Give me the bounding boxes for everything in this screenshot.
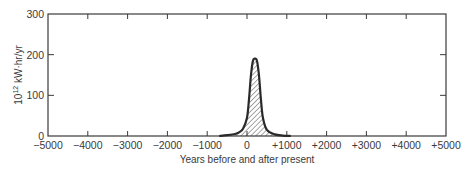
- x-tick-label: +2000: [312, 139, 342, 151]
- x-tick-label: −1000: [192, 139, 222, 151]
- x-tick-label: 0: [244, 139, 250, 151]
- y-tick-label: 200: [26, 49, 44, 61]
- production-curve-chart: −5000−4000−3000−2000−10000+1000+2000+300…: [0, 0, 468, 176]
- y-axis-title: 1012 kW·hr/yr: [12, 45, 24, 105]
- x-axis-title: Years before and after present: [180, 154, 315, 165]
- x-tick-label: −4000: [73, 139, 103, 151]
- x-tick-label: −2000: [153, 139, 183, 151]
- x-tick-label: −3000: [113, 139, 143, 151]
- x-tick-label: +5000: [431, 139, 461, 151]
- y-tick-label: 0: [38, 130, 44, 142]
- y-axis-ticks: 0100200300: [26, 8, 446, 142]
- y-tick-label: 100: [26, 89, 44, 101]
- x-tick-label: +4000: [391, 139, 421, 151]
- y-tick-label: 300: [26, 8, 44, 20]
- x-tick-label: +1000: [272, 139, 302, 151]
- x-tick-label: +3000: [352, 139, 382, 151]
- data-curve: [219, 59, 291, 136]
